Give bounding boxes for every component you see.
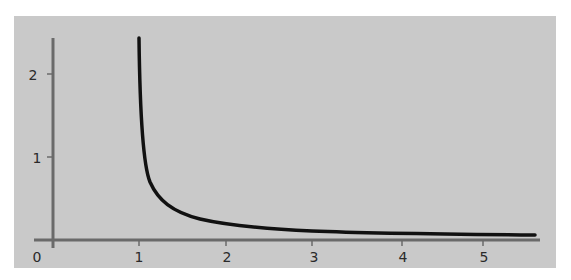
- x-label-4: 4: [399, 249, 408, 265]
- y-label-1: 1: [33, 150, 42, 166]
- x-label-3: 3: [310, 249, 319, 265]
- origin-label: 0: [33, 249, 42, 265]
- y-label-2: 2: [29, 67, 38, 83]
- x-label-1: 1: [135, 249, 144, 265]
- x-label-2: 2: [223, 249, 232, 265]
- chart-plot: 2 1 0 1 2 3 4 5: [0, 0, 571, 280]
- data-curve: [139, 38, 535, 235]
- x-label-5: 5: [480, 249, 489, 265]
